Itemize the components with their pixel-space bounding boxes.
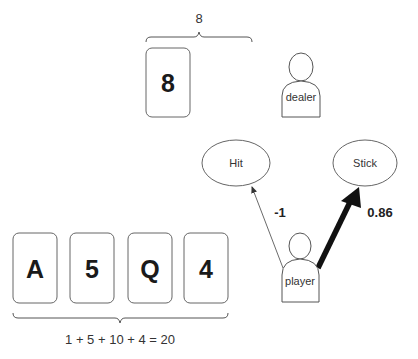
player-person-icon: [282, 233, 319, 302]
stick-value-label: 0.86: [367, 205, 392, 220]
player-card: 5: [70, 233, 114, 303]
player-card-value: Q: [140, 255, 159, 283]
dealer-card-value: 8: [161, 69, 175, 97]
hit-action-node: Hit: [202, 140, 270, 186]
stick-action-node: Stick: [333, 140, 397, 186]
player-sum-label: 1 + 5 + 10 + 4 = 20: [65, 332, 175, 347]
player-card-value: A: [26, 255, 44, 283]
dealer-label: dealer: [286, 91, 317, 103]
player-card: A: [13, 233, 57, 303]
dealer-person-icon: [282, 53, 320, 117]
player-card-value: 5: [85, 255, 99, 283]
blackjack-diagram: 8 8 dealer Hit Stick -1 0.86 player A: [0, 0, 418, 359]
hit-value-label: -1: [274, 205, 286, 220]
hit-label: Hit: [229, 157, 242, 169]
stick-arrow: [318, 187, 361, 268]
player-card-value: 4: [199, 255, 213, 283]
dealer-sum-label: 8: [195, 11, 202, 26]
dealer-brace: [146, 32, 252, 42]
stick-label: Stick: [353, 157, 377, 169]
player-label: player: [285, 275, 315, 287]
player-brace: [13, 313, 228, 323]
hit-arrow: [252, 187, 283, 268]
dealer-card: 8: [146, 48, 190, 117]
player-card: Q: [128, 233, 172, 303]
player-card: 4: [184, 233, 228, 303]
